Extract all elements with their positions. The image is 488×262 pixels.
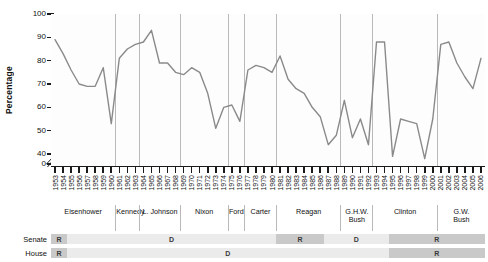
year-label-1979: 1979 xyxy=(260,175,267,191)
x-tick-1955 xyxy=(70,167,72,173)
president-label-line: Ford xyxy=(229,207,244,216)
x-tick-1971 xyxy=(199,167,201,173)
year-label-2005: 2005 xyxy=(469,175,476,191)
senate-segment-D-1955: D xyxy=(67,234,276,244)
x-tick-1961 xyxy=(119,167,121,173)
house-segment-R-1953: R xyxy=(51,248,67,258)
year-label-1961: 1961 xyxy=(116,175,123,191)
x-tick-1989 xyxy=(344,167,346,173)
x-axis-line xyxy=(51,166,485,167)
president-ljohnson: L. Johnson xyxy=(139,205,179,231)
x-tick-1996 xyxy=(400,167,402,173)
year-label-1956: 1956 xyxy=(76,175,83,191)
year-label-2003: 2003 xyxy=(453,175,460,191)
x-tick-1981 xyxy=(279,167,281,173)
year-label-1964: 1964 xyxy=(140,175,147,191)
president-label-line: Nixon xyxy=(195,207,213,216)
support-score-line xyxy=(51,14,485,166)
x-tick-1957 xyxy=(86,167,88,173)
year-label-1997: 1997 xyxy=(405,175,412,191)
x-tick-1982 xyxy=(287,167,289,173)
house-row-label: House xyxy=(3,249,47,259)
year-label-1986: 1986 xyxy=(317,175,324,191)
x-tick-1972 xyxy=(207,167,209,173)
year-label-1954: 1954 xyxy=(60,175,67,191)
x-tick-1980 xyxy=(271,167,273,173)
x-tick-1969 xyxy=(183,167,185,173)
house-segment-D-1955: D xyxy=(67,248,388,258)
year-label-1993: 1993 xyxy=(373,175,380,191)
x-tick-1977 xyxy=(247,167,249,173)
year-label-1982: 1982 xyxy=(285,175,292,191)
x-tick-1974 xyxy=(223,167,225,173)
x-tick-1956 xyxy=(78,167,80,173)
house-control-track: RDR xyxy=(51,248,485,258)
x-tick-1998 xyxy=(416,167,418,173)
year-label-2000: 2000 xyxy=(429,175,436,191)
x-tick-1967 xyxy=(167,167,169,173)
year-label-2006: 2006 xyxy=(477,175,484,191)
x-tick-1983 xyxy=(295,167,297,173)
year-label-1999: 1999 xyxy=(421,175,428,191)
year-label-1953: 1953 xyxy=(52,175,59,191)
senate-segment-D-1987: D xyxy=(324,234,388,244)
president-label-line: L. Johnson xyxy=(142,207,177,216)
y-tick-label-70: 70 xyxy=(24,80,46,88)
x-tick-2001 xyxy=(440,167,442,173)
x-tick-1965 xyxy=(151,167,153,173)
year-label-1975: 1975 xyxy=(228,175,235,191)
house-segment-R-1995: R xyxy=(389,248,485,258)
x-tick-1993 xyxy=(376,167,378,173)
president-eisenhower: Eisenhower xyxy=(51,205,115,231)
year-label-1980: 1980 xyxy=(269,175,276,191)
year-label-1974: 1974 xyxy=(220,175,227,191)
year-label-1969: 1969 xyxy=(180,175,187,191)
x-tick-1997 xyxy=(408,167,410,173)
x-tick-1976 xyxy=(239,167,241,173)
president-label-line: Carter xyxy=(250,207,270,216)
x-tick-1958 xyxy=(94,167,96,173)
y-tick-label-60: 60 xyxy=(24,103,46,111)
year-label-1971: 1971 xyxy=(196,175,203,191)
x-tick-1991 xyxy=(360,167,362,173)
year-label-1958: 1958 xyxy=(92,175,99,191)
year-label-1959: 1959 xyxy=(100,175,107,191)
y-tick-label-80: 80 xyxy=(24,57,46,65)
x-tick-2003 xyxy=(456,167,458,173)
x-tick-1970 xyxy=(191,167,193,173)
president-label-line: Bush xyxy=(453,215,469,224)
president-carter: Carter xyxy=(244,205,276,231)
x-tick-2005 xyxy=(472,167,474,173)
x-tick-2006 xyxy=(480,167,482,173)
year-label-1973: 1973 xyxy=(212,175,219,191)
year-label-1995: 1995 xyxy=(389,175,396,191)
year-label-1962: 1962 xyxy=(124,175,131,191)
x-tick-1954 xyxy=(62,167,64,173)
x-tick-1994 xyxy=(384,167,386,173)
year-label-1972: 1972 xyxy=(204,175,211,191)
year-label-1984: 1984 xyxy=(301,175,308,191)
year-label-1989: 1989 xyxy=(341,175,348,191)
chart-root: Percentage 1009080706050400 195319541955… xyxy=(0,0,488,262)
senate-segment-R-1953: R xyxy=(51,234,67,244)
year-label-1987: 1987 xyxy=(325,175,332,191)
president-nixon: Nixon xyxy=(180,205,228,231)
year-label-1981: 1981 xyxy=(277,175,284,191)
y-tick-label-40: 40 xyxy=(24,150,46,158)
year-label-1990: 1990 xyxy=(349,175,356,191)
x-tick-2004 xyxy=(464,167,466,173)
x-tick-1990 xyxy=(352,167,354,173)
year-label-1965: 1965 xyxy=(148,175,155,191)
year-label-2004: 2004 xyxy=(461,175,468,191)
president-label-line: Clinton xyxy=(394,207,416,216)
year-label-1996: 1996 xyxy=(397,175,404,191)
x-tick-1975 xyxy=(231,167,233,173)
x-tick-1986 xyxy=(319,167,321,173)
x-tick-1959 xyxy=(102,167,104,173)
year-label-1985: 1985 xyxy=(309,175,316,191)
x-tick-1966 xyxy=(159,167,161,173)
x-tick-1960 xyxy=(110,167,112,173)
president-label-line: Reagan xyxy=(296,207,321,216)
year-label-1970: 1970 xyxy=(188,175,195,191)
senate-segment-R-1995: R xyxy=(389,234,485,244)
